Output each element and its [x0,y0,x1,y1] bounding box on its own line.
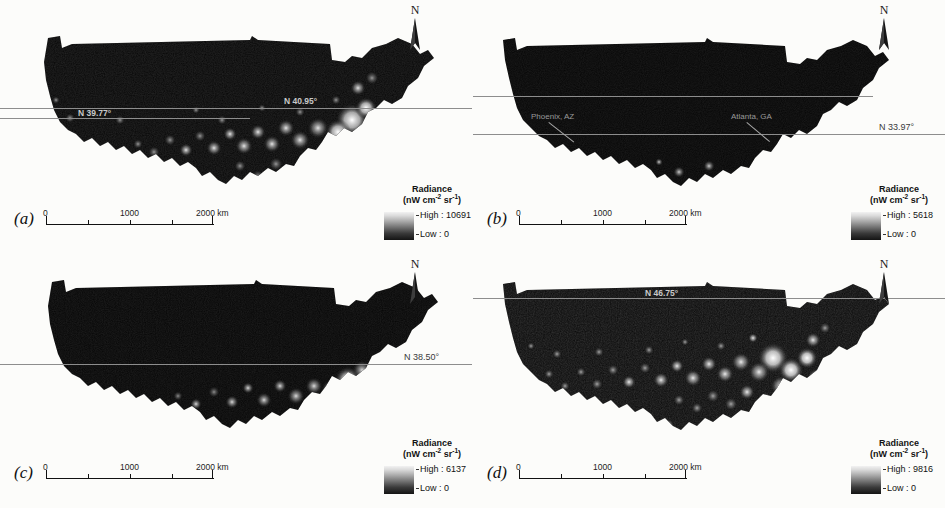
legend-high-value: High : 6137 [420,464,466,474]
legend-tick-high [883,469,886,470]
scale-tick-start [46,216,47,225]
legend-units-suffix: ) [458,449,461,459]
scale-tick-end [212,216,213,225]
legend-units-mid: sr [441,449,452,459]
latitude-line-40-95 [0,108,472,109]
scale-tick-minor [645,474,646,479]
panel-label-a: (a) [14,209,34,229]
panel-b: N 33.97° Phoenix, AZ Atlanta, GA N (b) 0… [473,0,945,254]
scale-tick-minor [603,220,604,225]
legend-high-value: High : 5618 [887,210,933,220]
latitude-line-unlabeled [473,96,873,97]
latitude-label-38-50: N 38.50° [404,352,439,362]
scale-label-1000: 1000 [593,462,612,472]
compass-needle-icon [871,16,897,52]
legend-colorbar [851,466,881,494]
north-arrow-c: N [402,258,428,306]
compass-needle-icon [871,270,897,306]
legend-units-mid: sr [441,195,452,205]
scale-bar-d: 0 1000 2000 km [519,462,699,490]
scale-tick-minor [172,220,173,225]
legend-low-value: Low : 0 [887,229,916,239]
scale-tick-minor [172,474,173,479]
compass-needle-icon [402,270,428,306]
compass-needle-icon [402,16,428,52]
legend-tick-low [416,488,419,489]
north-letter: N [402,258,428,270]
legend-units-mid: sr [908,195,919,205]
latitude-line-39-77 [0,118,250,119]
legend-title: Radiance [380,438,484,449]
legend-colorbar [384,212,414,240]
legend-low-value: Low : 0 [887,483,916,493]
scale-tick-end [685,470,686,479]
scale-tick-minor [130,474,131,479]
panel-label-d: (d) [487,463,507,483]
scale-tick-minor [88,474,89,479]
latitude-label-33-97: N 33.97° [879,122,914,132]
scale-tick-minor [603,474,604,479]
figure-four-panel-nightlights: N 40.95° N 39.77° N (a) 0 1000 2000 km R… [0,0,945,508]
legend-units-mid: sr [908,449,919,459]
legend-units: (nW cm-2 sr-1) [847,449,945,460]
city-label-atlanta: Atlanta, GA [731,112,772,121]
legend-units-prefix: (nW cm [403,195,436,205]
legend-tick-high [416,215,419,216]
legend-high-value: High : 9816 [887,464,933,474]
scale-tick-start [519,470,520,479]
scale-tick-minor [130,220,131,225]
latitude-label-46-75: N 46.75° [645,288,678,298]
north-arrow-a: N [402,4,428,52]
scale-tick-minor [645,220,646,225]
scale-label-1000: 1000 [593,208,612,218]
latitude-label-40-95: N 40.95° [284,96,317,106]
north-letter: N [871,4,897,16]
legend-high-value: High : 10691 [420,210,471,220]
legend-colorbar [384,466,414,494]
legend-units: (nW cm-2 sr-1) [380,449,484,460]
legend-tick-low [883,234,886,235]
scale-label-1000: 1000 [120,208,139,218]
legend-units-suffix: ) [925,449,928,459]
legend-tick-low [416,234,419,235]
legend-units-suffix: ) [458,195,461,205]
panel-d: N 46.75° N (d) 0 1000 2000 km Radiance (… [473,254,945,508]
scale-tick-minor [561,474,562,479]
legend-tick-high [883,215,886,216]
radiance-legend-a: Radiance (nW cm-2 sr-1) High : 10691 Low… [380,184,484,242]
legend-title: Radiance [380,184,484,195]
north-arrow-d: N [871,258,897,306]
legend-units-suffix: ) [925,195,928,205]
radiance-legend-c: Radiance (nW cm-2 sr-1) High : 6137 Low … [380,438,484,496]
city-label-phoenix: Phoenix, AZ [531,112,574,121]
scale-tick-start [46,470,47,479]
legend-units-prefix: (nW cm [403,449,436,459]
legend-units: (nW cm-2 sr-1) [847,195,945,206]
latitude-line-33-97 [473,134,945,135]
scale-bar-a: 0 1000 2000 km [46,208,226,236]
scale-tick-start [519,216,520,225]
scale-tick-end [685,216,686,225]
legend-low-value: Low : 0 [420,483,449,493]
north-letter: N [402,4,428,16]
legend-units-prefix: (nW cm [870,449,903,459]
legend-colorbar [851,212,881,240]
radiance-legend-b: Radiance (nW cm-2 sr-1) High : 5618 Low … [847,184,945,242]
north-arrow-b: N [871,4,897,52]
legend-title: Radiance [847,438,945,449]
latitude-label-39-77: N 39.77° [78,108,111,118]
scale-tick-minor [88,220,89,225]
radiance-legend-d: Radiance (nW cm-2 sr-1) High : 9816 Low … [847,438,945,496]
legend-tick-low [883,488,886,489]
panel-label-c: (c) [14,463,33,483]
scale-bar-b: 0 1000 2000 km [519,208,699,236]
scale-tick-minor [561,220,562,225]
legend-units: (nW cm-2 sr-1) [380,195,484,206]
legend-tick-high [416,469,419,470]
scale-tick-end [212,470,213,479]
scale-label-1000: 1000 [120,462,139,472]
panel-c: N 38.50° N (c) 0 1000 2000 km Radiance (… [0,254,472,508]
latitude-line-38-50 [0,364,472,365]
north-letter: N [871,258,897,270]
legend-low-value: Low : 0 [420,229,449,239]
